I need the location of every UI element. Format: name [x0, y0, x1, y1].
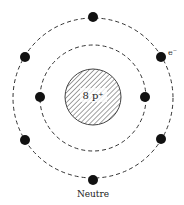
atom-diagram: 8 p⁺ e⁻ Neutre [0, 0, 184, 205]
electron [156, 134, 166, 144]
electron [156, 52, 166, 62]
electron-label: e⁻ [168, 48, 177, 57]
electron [20, 52, 30, 62]
electron [20, 135, 30, 145]
electron [88, 175, 98, 185]
electron [140, 92, 150, 102]
caption: Neutre [77, 189, 109, 199]
electron [88, 12, 98, 22]
electron [35, 92, 45, 102]
nucleus-label: 8 p⁺ [82, 90, 103, 101]
